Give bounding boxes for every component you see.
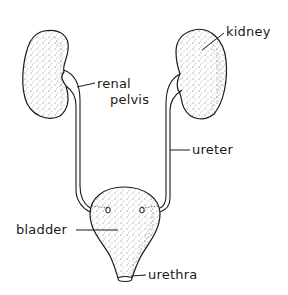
label-urethra: urethra bbox=[148, 268, 197, 281]
label-bladder: bladder bbox=[16, 223, 67, 236]
label-renal-pelvis-line1: renal bbox=[97, 77, 131, 90]
label-kidney: kidney bbox=[226, 25, 271, 38]
left-kidney bbox=[23, 30, 69, 118]
urethra bbox=[118, 277, 132, 282]
bladder bbox=[90, 187, 160, 278]
urinary-system-diagram bbox=[0, 0, 288, 295]
label-renal-pelvis-line2: pelvis bbox=[110, 93, 149, 106]
right-ureter bbox=[160, 74, 182, 212]
renal-pelvis-leader bbox=[77, 83, 95, 87]
right-kidney bbox=[176, 29, 227, 118]
label-ureter: ureter bbox=[192, 143, 233, 156]
